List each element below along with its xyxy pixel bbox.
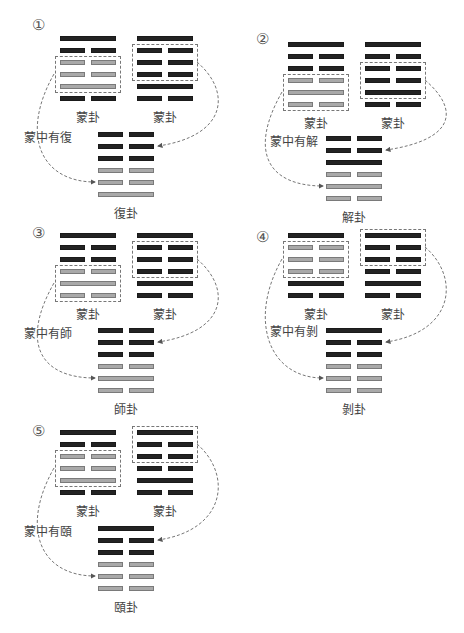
connector-arrows bbox=[250, 22, 464, 222]
connector-arrows bbox=[22, 22, 242, 222]
panel-5: ⑤蒙卦蒙卦頤卦蒙中有頤 bbox=[22, 422, 242, 617]
panel-3: ③蒙卦蒙卦師卦蒙中有師 bbox=[22, 222, 242, 417]
panel-4: ④蒙卦蒙卦剝卦蒙中有剝 bbox=[250, 222, 464, 417]
connector-arrows bbox=[22, 422, 242, 622]
connector-arrows bbox=[22, 222, 242, 422]
panel-2: ②蒙卦蒙卦解卦蒙中有解 bbox=[250, 22, 464, 217]
panel-1: ①蒙卦蒙卦復卦蒙中有復 bbox=[22, 22, 242, 217]
connector-arrows bbox=[250, 222, 464, 422]
